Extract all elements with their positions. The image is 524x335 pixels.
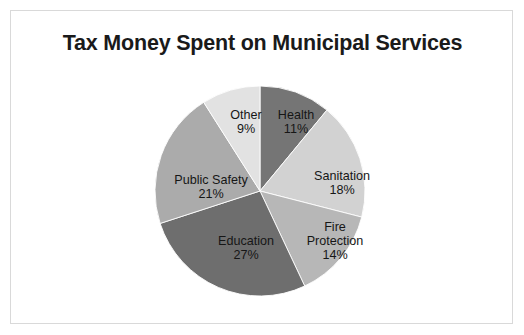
pie-slice-name: Public Safety <box>174 173 248 187</box>
pie-slice-label: Sanitation18% <box>314 169 370 197</box>
pie-slice-value: 9% <box>230 122 262 136</box>
pie-slice-value: 11% <box>278 122 314 136</box>
pie-slice-name: Protection <box>307 234 364 248</box>
slide-canvas: Tax Money Spent on Municipal Services He… <box>10 10 513 324</box>
pie-slice-name: Fire <box>307 220 364 234</box>
pie-slice-label: Health11% <box>278 108 314 136</box>
pie-slice-label: Public Safety21% <box>174 173 248 201</box>
pie-slice-name: Sanitation <box>314 169 370 183</box>
pie-slice-value: 27% <box>218 248 274 262</box>
pie-slice-label: Other9% <box>230 108 262 136</box>
pie-slice-label: Education27% <box>218 234 274 262</box>
pie-chart: Health11%Sanitation18%FireProtection14%E… <box>11 11 514 325</box>
pie-slice-value: 21% <box>174 187 248 201</box>
pie-slice-name: Other <box>230 108 262 122</box>
pie-slice-value: 18% <box>314 183 370 197</box>
pie-slice-name: Education <box>218 234 274 248</box>
pie-slice-name: Health <box>278 108 314 122</box>
pie-slice-label: FireProtection14% <box>307 220 364 262</box>
pie-slice-value: 14% <box>307 248 364 262</box>
